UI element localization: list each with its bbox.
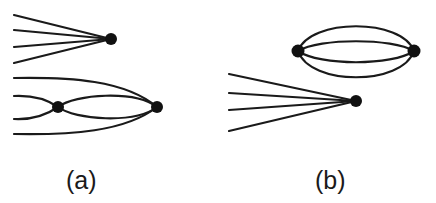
vertex-b-right — [408, 45, 421, 58]
vertex-a-middle — [52, 101, 64, 113]
vertex-a-fan — [105, 33, 117, 45]
bubble-arc-outer-top — [298, 26, 414, 51]
vertex-b-fan — [350, 95, 362, 107]
panel-a-fan — [14, 15, 117, 63]
inner-bottom-leg — [14, 107, 58, 119]
outer-top-leg — [14, 78, 157, 107]
panel-b-fan — [229, 74, 362, 131]
bubble-arc-outer-bottom — [298, 51, 414, 77]
vertex-a-right — [151, 101, 163, 113]
outer-bottom-leg — [14, 107, 157, 134]
bubble-arc-inner-top — [298, 41, 414, 51]
vertex-b-left — [292, 45, 305, 58]
panel-label-a: (a) — [66, 168, 97, 193]
bubble-arc-inner-bottom — [298, 51, 414, 62]
inner-top-leg — [14, 96, 58, 107]
panel-label-b: (b) — [315, 168, 346, 193]
panel-a-lower — [14, 78, 163, 134]
panel-b-bubble — [292, 26, 421, 77]
